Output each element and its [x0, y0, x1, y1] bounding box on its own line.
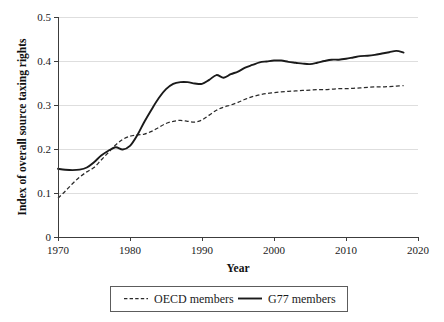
- legend-label-g77-members: G77 members: [268, 292, 336, 306]
- x-tick-label: 2000: [263, 244, 286, 256]
- y-tick-label: 0.5: [37, 11, 51, 23]
- y-tick-label: 0: [46, 231, 52, 243]
- x-tick-label: 1970: [47, 244, 70, 256]
- x-tick-label: 2010: [335, 244, 358, 256]
- x-axis-title: Year: [227, 262, 250, 274]
- chart-figure: 00.10.20.30.40.5197019801990200020102020…: [0, 0, 444, 322]
- line-chart: 00.10.20.30.40.5197019801990200020102020…: [0, 0, 444, 322]
- y-tick-label: 0.3: [37, 99, 51, 111]
- chart-background: [0, 0, 444, 322]
- legend-label-oecd-members: OECD members: [154, 292, 234, 306]
- x-tick-label: 1990: [191, 244, 214, 256]
- y-tick-label: 0.2: [37, 143, 51, 155]
- x-tick-label: 2020: [407, 244, 430, 256]
- y-tick-label: 0.4: [37, 55, 51, 67]
- x-tick-label: 1980: [119, 244, 142, 256]
- y-axis-title: Index of overall source taxing rights: [16, 38, 29, 216]
- y-tick-label: 0.1: [37, 187, 51, 199]
- legend: OECD membersG77 members: [110, 286, 347, 311]
